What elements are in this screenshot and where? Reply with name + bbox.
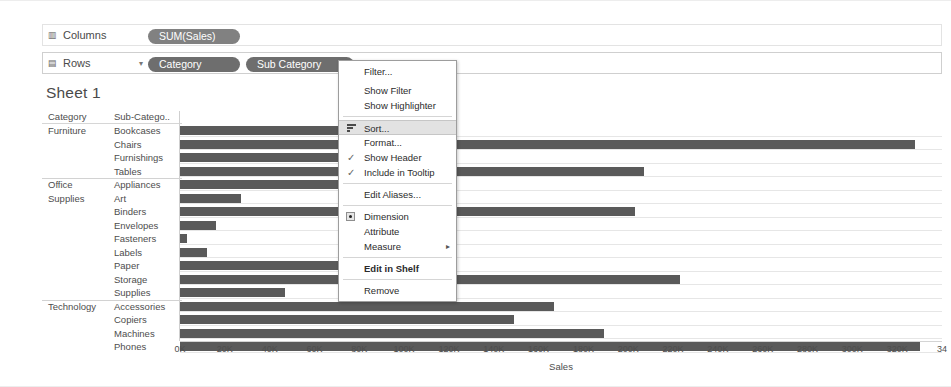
sub-category-label[interactable]: Art <box>114 193 126 204</box>
axis-title: Sales <box>549 361 573 372</box>
menu-item-include-in-tooltip[interactable]: ✓Include in Tooltip <box>339 165 456 180</box>
row-gridline <box>180 149 942 150</box>
chart-row[interactable]: Tables <box>42 165 942 179</box>
rows-shelf-label: Rows <box>63 57 91 69</box>
chart-row[interactable]: Fasteners <box>42 232 942 246</box>
chart-row[interactable]: SuppliesArt <box>42 192 942 206</box>
sub-category-label[interactable]: Bookcases <box>114 125 160 136</box>
column-header-category[interactable]: Category <box>48 111 87 122</box>
rows-shelf-caret-icon[interactable]: ▾ <box>139 59 143 68</box>
bar-mark[interactable] <box>180 248 207 257</box>
chart-row[interactable]: Storage <box>42 273 942 287</box>
bar-mark[interactable] <box>180 315 514 324</box>
radio-selected-icon <box>346 212 355 221</box>
sub-category-label[interactable]: Chairs <box>114 139 141 150</box>
menu-item-format[interactable]: Format... <box>339 135 456 150</box>
sub-category-label[interactable]: Tables <box>114 166 141 177</box>
bar-mark[interactable] <box>180 302 554 311</box>
axis-tick-label: 80K <box>351 344 367 354</box>
menu-item-label: Dimension <box>364 211 409 222</box>
pill-sum-sales[interactable]: SUM(Sales) <box>148 29 240 44</box>
chart-row[interactable]: Labels <box>42 246 942 260</box>
axis-tick-label: 120K <box>438 344 459 354</box>
category-label[interactable]: Supplies <box>48 193 84 204</box>
bar-mark[interactable] <box>180 288 285 297</box>
menu-item-show-highlighter[interactable]: Show Highlighter <box>339 98 456 113</box>
sub-category-label[interactable]: Storage <box>114 274 147 285</box>
chart-row[interactable]: FurnitureBookcases <box>42 124 942 138</box>
chart-row[interactable]: Binders <box>42 205 942 219</box>
worksheet: Sheet 1 Category Sub-Catego.. FurnitureB… <box>0 78 951 387</box>
row-gridline <box>180 190 942 191</box>
bar-mark[interactable] <box>180 221 216 230</box>
columns-shelf[interactable]: ▥ Columns SUM(Sales) <box>42 24 942 46</box>
sub-category-label[interactable]: Accessories <box>114 301 165 312</box>
menu-item-edit-in-shelf[interactable]: Edit in Shelf <box>339 261 456 276</box>
axis-tick-label: 40K <box>262 344 278 354</box>
menu-item-label: Edit Aliases... <box>364 189 421 200</box>
category-label[interactable]: Furniture <box>48 125 86 136</box>
menu-separator <box>343 183 452 184</box>
menu-item-attribute[interactable]: Attribute <box>339 224 456 239</box>
sub-category-label[interactable]: Paper <box>114 260 139 271</box>
axis-tick-label: 320K <box>887 344 908 354</box>
sub-category-label[interactable]: Copiers <box>114 314 147 325</box>
chart-row[interactable]: Paper <box>42 259 942 273</box>
bar-mark[interactable] <box>180 140 915 149</box>
sub-category-label[interactable]: Appliances <box>114 179 160 190</box>
menu-item-remove[interactable]: Remove <box>339 283 456 298</box>
chart-row[interactable]: Machines <box>42 327 942 341</box>
bar-mark[interactable] <box>180 194 241 203</box>
chart-row[interactable]: TechnologyAccessories <box>42 300 942 314</box>
bar-mark[interactable] <box>180 234 187 243</box>
row-gridline <box>180 284 942 285</box>
menu-item-show-header[interactable]: ✓Show Header <box>339 150 456 165</box>
chart-row[interactable]: OfficeAppliances <box>42 178 942 192</box>
sub-category-label[interactable]: Fasteners <box>114 233 156 244</box>
rows-shelf[interactable]: ▤ Rows ▾ Category Sub Category <box>42 52 942 74</box>
menu-item-measure[interactable]: Measure▸ <box>339 239 456 254</box>
axis-tick-label: 0K <box>174 344 185 354</box>
axis-tick-label: 160K <box>528 344 549 354</box>
sub-category-label[interactable]: Envelopes <box>114 220 158 231</box>
chart-row[interactable]: Supplies <box>42 286 942 300</box>
check-icon: ✓ <box>347 150 355 165</box>
category-label[interactable]: Technology <box>48 301 96 312</box>
column-header-sub-category[interactable]: Sub-Catego.. <box>114 111 170 122</box>
sub-category-label[interactable]: Furnishings <box>114 152 163 163</box>
row-gridline <box>180 325 942 326</box>
bar-mark[interactable] <box>180 261 355 270</box>
x-axis: Sales 0K20K40K60K80K100K120K140K160K180K… <box>42 341 942 387</box>
menu-item-filter[interactable]: Filter... <box>339 64 456 79</box>
menu-item-label: Measure <box>364 241 401 252</box>
menu-item-show-filter[interactable]: Show Filter <box>339 83 456 98</box>
chart-row[interactable]: Envelopes <box>42 219 942 233</box>
sub-category-label[interactable]: Labels <box>114 247 142 258</box>
column-header-row: Category Sub-Catego.. <box>42 111 942 124</box>
chart-row[interactable]: Chairs <box>42 138 942 152</box>
bar-mark[interactable] <box>180 329 604 338</box>
pill-category[interactable]: Category <box>148 57 240 72</box>
menu-item-dimension[interactable]: Dimension <box>339 209 456 224</box>
axis-tick-label: 60K <box>306 344 322 354</box>
chart-row[interactable]: Furnishings <box>42 151 942 165</box>
row-gridline <box>180 244 942 245</box>
axis-tick-label: 200K <box>618 344 639 354</box>
sub-category-label[interactable]: Binders <box>114 206 146 217</box>
sub-category-label[interactable]: Machines <box>114 328 155 339</box>
menu-item-sort[interactable]: Sort... <box>339 120 456 135</box>
row-gridline <box>180 217 942 218</box>
columns-pill-container: SUM(Sales) <box>148 25 240 47</box>
row-gridline <box>180 311 942 312</box>
menu-item-edit-aliases[interactable]: Edit Aliases... <box>339 187 456 202</box>
menu-separator <box>343 116 452 117</box>
category-label[interactable]: Office <box>48 179 73 190</box>
row-gridline <box>180 257 942 258</box>
rows-pill-container: Category Sub Category <box>148 53 354 75</box>
sort-icon <box>347 124 356 133</box>
row-gridline <box>180 176 942 177</box>
sub-category-label[interactable]: Supplies <box>114 287 150 298</box>
axis-tick-label: 220K <box>663 344 684 354</box>
context-menu[interactable]: Filter...Show FilterShow HighlighterSort… <box>338 60 457 302</box>
chart-row[interactable]: Copiers <box>42 313 942 327</box>
